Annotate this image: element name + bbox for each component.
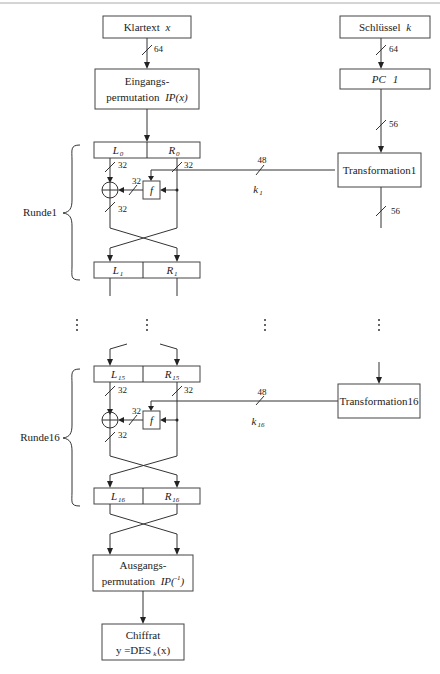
key-into-transform16 [376, 362, 382, 384]
pc1-to-transform1-arrow: 56 [376, 89, 399, 153]
svg-text:k16: k16 [252, 415, 265, 429]
key-to-pc1-arrow: 64 [376, 38, 399, 69]
svg-text:32: 32 [184, 385, 193, 395]
round1-block: L0 R0 32 32 32 f 3 [94, 142, 335, 296]
final-permutation-box: Ausgangs- permutation IP(-1) [93, 555, 193, 591]
svg-text:48: 48 [258, 155, 268, 165]
svg-text:k1: k1 [253, 183, 262, 197]
round16-entry [107, 344, 180, 366]
fp-to-cipher-arrow [140, 591, 146, 624]
transformation16-box: Transformation16 [338, 384, 420, 418]
svg-text:y =DESk(x): y =DESk(x) [116, 644, 171, 658]
svg-text:32: 32 [118, 204, 127, 214]
svg-text:permutation IP(-1): permutation IP(-1) [102, 574, 185, 588]
key-box: Schlüssel k [340, 16, 430, 38]
svg-text:32: 32 [132, 176, 141, 186]
ciphertext-box: Chiffrat y =DESk(x) [102, 624, 184, 660]
des-diagram: Klartext x 64 Eingangs- permutation IP(x… [0, 0, 440, 674]
svg-text:48: 48 [258, 387, 268, 397]
l1-r1-register [94, 262, 200, 278]
plaintext-to-ip-arrow: 64 [142, 38, 164, 69]
plaintext-box: Klartext x [103, 16, 191, 38]
xor-icon [102, 182, 118, 198]
transform1-out: 56 [376, 187, 401, 228]
svg-text:Transformation16: Transformation16 [339, 395, 419, 407]
svg-text:Transformation1: Transformation1 [343, 164, 417, 176]
svg-text:PC 1: PC 1 [371, 73, 398, 85]
svg-text:Runde1: Runde1 [23, 206, 57, 218]
l16-r16-register [94, 488, 200, 504]
svg-text:permutation IP(x): permutation IP(x) [106, 91, 188, 104]
svg-text:32: 32 [132, 406, 141, 416]
svg-text:Ausgangs-: Ausgangs- [119, 559, 166, 571]
final-swap [107, 504, 180, 555]
initial-permutation-box: Eingangs- permutation IP(x) [95, 69, 199, 109]
svg-text:56: 56 [391, 206, 401, 216]
round16-block: L15 R15 32 32 32 f 32 48 [94, 366, 338, 504]
round16-brace: Runde16 [20, 369, 80, 506]
svg-text:Eingangs-: Eingangs- [125, 75, 170, 87]
svg-text:Runde16: Runde16 [20, 431, 60, 443]
svg-text:Chiffrat: Chiffrat [126, 629, 161, 641]
l15-r15-register [94, 366, 200, 382]
svg-text:32: 32 [118, 430, 127, 440]
pc1-box: PC 1 [340, 69, 430, 89]
svg-text:32: 32 [184, 160, 193, 170]
ellipsis-row [76, 319, 380, 331]
svg-text:64: 64 [154, 44, 164, 54]
transformation1-box: Transformation1 [338, 153, 421, 187]
xor-icon [102, 412, 118, 428]
svg-text:56: 56 [389, 119, 399, 129]
ip-to-round1-arrow [144, 109, 150, 142]
svg-text:64: 64 [389, 44, 399, 54]
svg-text:32: 32 [118, 160, 127, 170]
svg-text:32: 32 [118, 385, 127, 395]
round1-brace: Runde1 [23, 145, 80, 280]
